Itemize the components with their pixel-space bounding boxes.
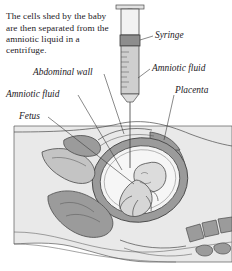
label-abdominal-wall: Abdominal wall: [33, 67, 93, 77]
leader-syringe: [140, 36, 153, 40]
leader-amniotic-right: [138, 69, 150, 78]
label-placenta: Placenta: [175, 85, 208, 95]
label-fetus: Fetus: [19, 111, 40, 121]
syringe-hub: [121, 94, 139, 102]
syringe-plunger-flange: [116, 5, 144, 9]
label-amniotic-fluid-right: Amniotic fluid: [152, 63, 205, 73]
figure-amniocentesis: The cells shed by the baby are then sepa…: [0, 0, 232, 271]
label-amniotic-fluid-left: Amniotic fluid: [6, 89, 59, 99]
syringe-stopper: [120, 35, 140, 46]
label-syringe: Syringe: [155, 30, 184, 40]
syringe-barrel-upper: [121, 9, 139, 35]
anatomy-illustration: [0, 0, 232, 271]
